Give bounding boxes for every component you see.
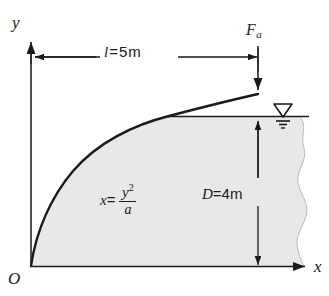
force-label-Fa: Fa: [246, 22, 262, 40]
depth-equals: =: [213, 185, 222, 202]
parabolic-gate-figure: y x O Fa l=5m D=4m x= y2 a: [0, 0, 329, 296]
length-value: 5: [119, 43, 127, 60]
depth-dimension-label: D=4m: [202, 186, 242, 202]
force-symbol: F: [246, 21, 256, 38]
force-subscript: a: [256, 28, 262, 40]
origin-label: O: [8, 270, 20, 287]
y-axis-label: y: [12, 14, 20, 31]
depth-value: 4: [222, 185, 230, 202]
length-dimension-label: l=5m: [104, 44, 141, 60]
x-axis-label: x: [314, 258, 322, 275]
equation-numerator-exponent: 2: [129, 182, 134, 193]
length-dimension-line: [31, 48, 258, 72]
figure-canvas: [0, 0, 329, 296]
water-region-fill: [31, 117, 307, 266]
depth-unit: m: [230, 185, 243, 202]
equation-numerator: y2: [120, 183, 136, 201]
length-symbol: l: [104, 44, 108, 60]
curve-equation-label: x= y2 a: [100, 183, 136, 217]
equation-numerator-base: y: [122, 184, 129, 200]
equation-equals: =: [107, 191, 116, 208]
equation-x: x: [100, 192, 107, 208]
equation-denominator: a: [122, 202, 133, 217]
length-unit: m: [128, 43, 141, 60]
depth-symbol: D: [202, 186, 213, 202]
equation-lhs: x=: [100, 192, 115, 208]
length-equals: =: [109, 43, 118, 60]
equation-fraction: y2 a: [119, 183, 136, 217]
